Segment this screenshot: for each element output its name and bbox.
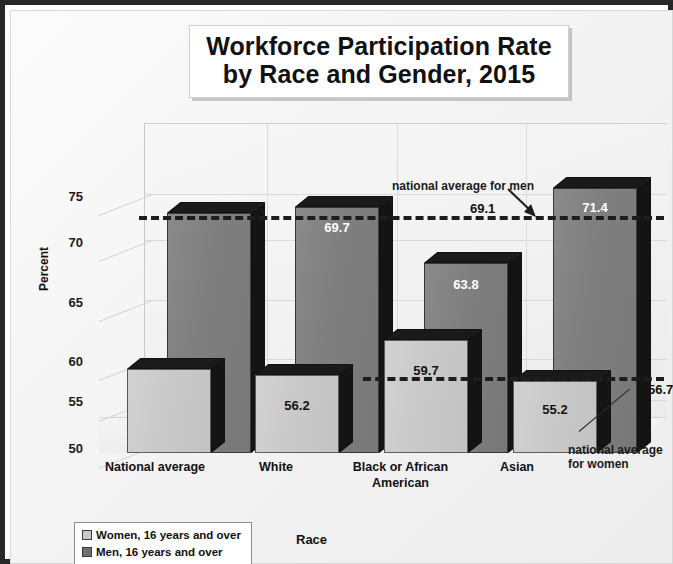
reference-line-women	[363, 377, 664, 381]
bar-value-women-black-or-african-american: 59.7	[385, 363, 467, 378]
y-tick-55: 55	[39, 394, 83, 409]
bar-value-men-black-or-african-american: 63.8	[425, 277, 507, 292]
y-tick-50: 50	[39, 441, 83, 456]
bar-women-national-average[interactable]	[127, 369, 211, 453]
legend-label-men: Men, 16 years and over	[96, 544, 223, 561]
reference-line-men	[139, 216, 664, 220]
legend-swatch-men-icon	[82, 547, 92, 557]
reference-label-women: national average for women	[568, 443, 663, 472]
y-tick-60: 60	[39, 354, 83, 369]
chart-legend: Women, 16 years and over Men, 16 years a…	[74, 522, 252, 564]
x-axis-label: Race	[296, 532, 327, 547]
chart-title-line-2: by Race and Gender, 2015	[198, 60, 560, 88]
bar-women-white[interactable]: 56.2	[255, 375, 339, 453]
x-category-asian: Asian	[475, 460, 559, 476]
reference-value-women: 56.7	[648, 382, 673, 397]
legend-item-men[interactable]: Men, 16 years and over	[82, 544, 241, 561]
image-frame: Workforce Participation Rate by Race and…	[0, 0, 673, 564]
x-category-black-or-african-american: Black or African American	[342, 460, 459, 491]
x-category-white: White	[221, 460, 331, 476]
reference-label-women-line1: national average	[568, 443, 663, 457]
bar-value-men-white: 69.7	[296, 220, 378, 235]
y-tick-65: 65	[39, 295, 83, 310]
chart-canvas: Workforce Participation Rate by Race and…	[10, 10, 673, 564]
y-tick-75: 75	[39, 189, 83, 204]
chart-title-line-1: Workforce Participation Rate	[198, 32, 560, 60]
chart-screenshot: Workforce Participation Rate by Race and…	[0, 0, 673, 564]
bar-value-women-white: 56.2	[256, 398, 338, 413]
bar-value-women-asian: 55.2	[514, 402, 596, 417]
plot-area: 69.7 56.2 63.8	[99, 123, 667, 453]
bar-value-men-asian: 71.4	[554, 200, 636, 215]
reference-label-women-line2: for women	[568, 457, 629, 471]
reference-arrow-men	[506, 187, 542, 219]
reference-value-men: 69.1	[470, 201, 495, 216]
legend-swatch-women-icon	[82, 530, 92, 540]
legend-label-women: Women, 16 years and over	[96, 527, 241, 544]
legend-item-women[interactable]: Women, 16 years and over	[82, 527, 241, 544]
x-category-national-average: National average	[91, 460, 219, 476]
bar-women-black-or-african-american[interactable]: 59.7	[384, 340, 468, 453]
y-axis-label: Percent	[37, 247, 51, 291]
chart-title: Workforce Participation Rate by Race and…	[189, 25, 569, 98]
